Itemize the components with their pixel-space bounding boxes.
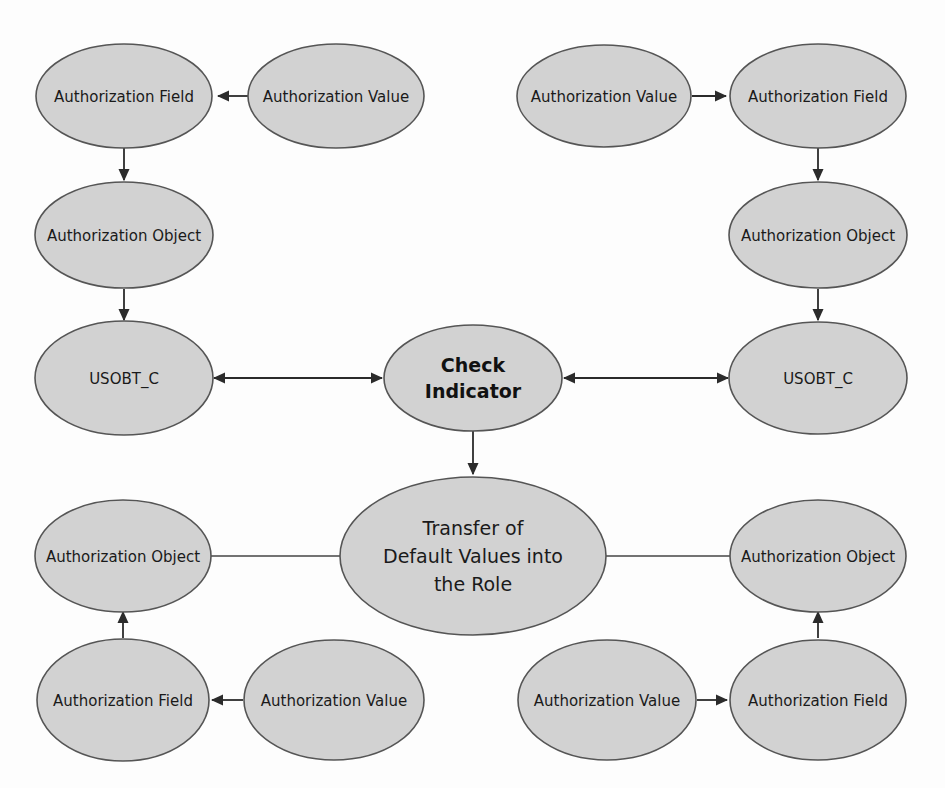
node-tl-authorization-value[interactable]: Authorization Value <box>248 44 424 148</box>
node-bl-authorization-value[interactable]: Authorization Value <box>244 640 424 760</box>
node-bl-authorization-field[interactable]: Authorization Field <box>37 639 209 761</box>
node-transfer-of-default-values[interactable]: Transfer of Default Values into the Role <box>340 477 606 635</box>
node-tl-usobt-c[interactable]: USOBT_C <box>35 321 213 435</box>
flow-diagram: Authorization Field Authorization Value … <box>0 0 945 788</box>
node-tl-authorization-field[interactable]: Authorization Field <box>36 44 212 148</box>
node-br-authorization-value[interactable]: Authorization Value <box>518 640 696 760</box>
node-tr-usobt-c[interactable]: USOBT_C <box>729 322 907 434</box>
diagram-canvas: Authorization Field Authorization Value … <box>0 0 945 788</box>
node-br-authorization-object[interactable]: Authorization Object <box>730 500 906 612</box>
node-bl-authorization-object[interactable]: Authorization Object <box>35 500 211 612</box>
node-check-indicator[interactable]: Check Indicator <box>384 325 562 431</box>
node-tr-authorization-value[interactable]: Authorization Value <box>517 45 691 147</box>
node-br-authorization-field[interactable]: Authorization Field <box>730 640 906 760</box>
node-tl-authorization-object[interactable]: Authorization Object <box>35 182 213 288</box>
node-tr-authorization-object[interactable]: Authorization Object <box>729 182 907 288</box>
node-tr-authorization-field[interactable]: Authorization Field <box>730 44 906 148</box>
